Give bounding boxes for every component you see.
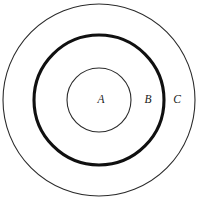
label-b: B xyxy=(144,93,151,105)
diagram-canvas: A B C xyxy=(0,0,199,200)
label-c: C xyxy=(173,93,181,105)
concentric-circles-figure: A B C xyxy=(0,0,199,200)
label-a: A xyxy=(96,93,105,105)
